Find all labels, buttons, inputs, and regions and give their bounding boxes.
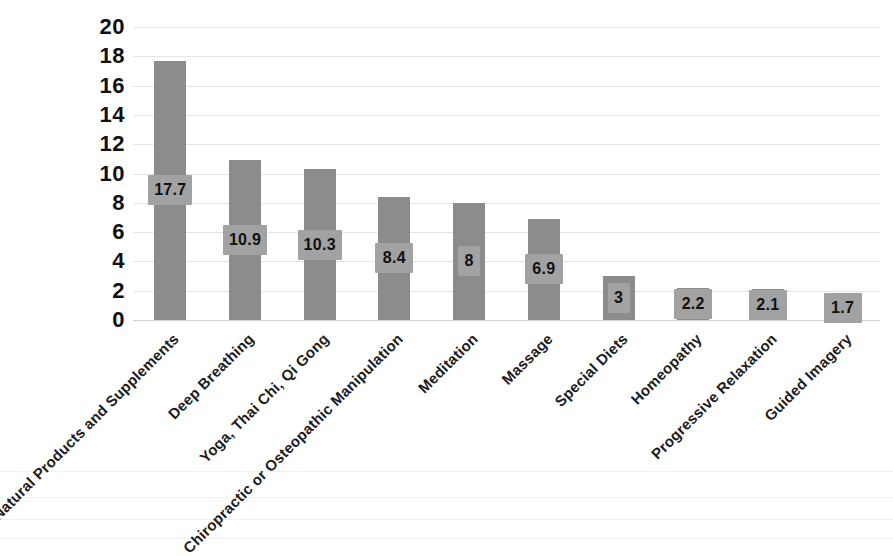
y-axis-tick-label: 16 <box>65 75 125 97</box>
y-axis-tick-label: 14 <box>65 104 125 126</box>
y-axis-tick-label: 8 <box>65 192 125 214</box>
bar-value-label: 6.9 <box>525 254 563 284</box>
y-axis-tick-label: 2 <box>65 280 125 302</box>
y-axis-tick-label: 0 <box>65 309 125 331</box>
y-axis-tick-label: 12 <box>65 133 125 155</box>
y-axis-tick-label: 4 <box>65 250 125 272</box>
x-axis-category-labels: Natural Products and SupplementsDeep Bre… <box>133 320 893 545</box>
y-axis-tick-label: 6 <box>65 221 125 243</box>
y-axis-tick-label: 10 <box>65 163 125 185</box>
y-axis-tick-label: 20 <box>65 16 125 38</box>
bar-value-label: 3 <box>608 283 630 313</box>
bar-value-label: 17.7 <box>148 175 192 205</box>
y-axis-tick-label: 18 <box>65 45 125 67</box>
bar-value-label: 2.2 <box>674 289 712 319</box>
